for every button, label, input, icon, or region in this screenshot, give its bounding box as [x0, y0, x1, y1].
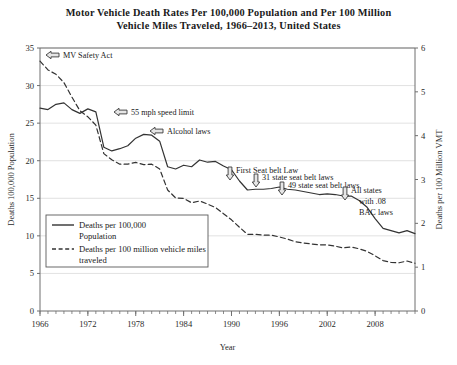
- x-axis-tick-label: 1978: [127, 319, 144, 329]
- legend-label: traveled: [79, 255, 107, 265]
- left-arrow-icon: [150, 127, 163, 135]
- y-axis-right-tick-label: 0: [421, 306, 425, 316]
- x-axis-title: Year: [220, 342, 236, 352]
- x-axis-tick-label: 2008: [367, 319, 384, 329]
- y-axis-right-title: Deaths per 100 Million VMT: [434, 129, 444, 230]
- legend-label: Deaths per 100 million vehicle miles: [79, 244, 206, 254]
- chart-figure: Motor Vehicle Death Rates Per 100,000 Po…: [0, 0, 457, 365]
- y-axis-right-tick-label: 5: [421, 87, 425, 97]
- annotation-label: with .08: [359, 197, 386, 206]
- y-axis-left-tick-label: 0: [30, 306, 34, 316]
- y-axis-right-tick-label: 3: [421, 175, 425, 185]
- x-axis-tick-label: 1996: [271, 319, 289, 329]
- annotation-label: 49 state seat belt laws: [288, 181, 359, 190]
- x-axis-tick-label: 1990: [223, 319, 240, 329]
- y-axis-left-tick-label: 35: [25, 43, 34, 53]
- x-axis-tick-label: 1966: [31, 319, 49, 329]
- annotation-55-mph-speed-limit: 55 mph speed limit: [114, 108, 195, 117]
- y-axis-left-tick-label: 25: [25, 118, 34, 128]
- y-axis-left-tick-label: 20: [25, 156, 34, 166]
- chart-canvas: 0510152025303501234561966197219781984199…: [0, 0, 457, 365]
- legend-label: Population: [79, 231, 117, 241]
- y-axis-right-tick-label: 2: [421, 218, 425, 228]
- y-axis-left-tick-label: 5: [30, 268, 34, 278]
- left-arrow-icon: [114, 108, 127, 116]
- y-axis-right-tick-label: 6: [421, 43, 426, 53]
- annotation-all-states-with-08-bac-laws: All stateswith .08BAC laws: [341, 186, 393, 217]
- y-axis-left-tick-label: 30: [25, 81, 34, 91]
- annotation-label: MV Safety Act: [63, 51, 113, 60]
- x-axis-tick-label: 1984: [175, 319, 193, 329]
- y-axis-left-title: Deaths 100,000 Population: [6, 133, 16, 226]
- down-arrow-icon: [252, 174, 260, 187]
- x-axis-tick-label: 2002: [319, 319, 336, 329]
- y-axis-left-tick-label: 15: [25, 193, 34, 203]
- annotation-label: All states: [351, 186, 382, 195]
- x-axis-tick-label: 1972: [79, 319, 96, 329]
- down-arrow-icon: [226, 167, 234, 180]
- left-arrow-icon: [46, 51, 59, 59]
- annotation-label: 55 mph speed limit: [131, 108, 195, 117]
- y-axis-right-tick-label: 1: [421, 262, 425, 272]
- y-axis-left-tick-label: 10: [25, 231, 34, 241]
- y-axis-right-tick-label: 4: [421, 131, 426, 141]
- annotation-mv-safety-act: MV Safety Act: [46, 51, 113, 60]
- annotation-alcohol-laws: Alcohol laws: [150, 127, 210, 136]
- annotation-label: Alcohol laws: [167, 127, 210, 136]
- legend-label: Deaths per 100,000: [79, 220, 146, 230]
- chart-legend: Deaths per 100,000PopulationDeaths per 1…: [46, 215, 208, 267]
- annotation-label: BAC laws: [359, 208, 393, 217]
